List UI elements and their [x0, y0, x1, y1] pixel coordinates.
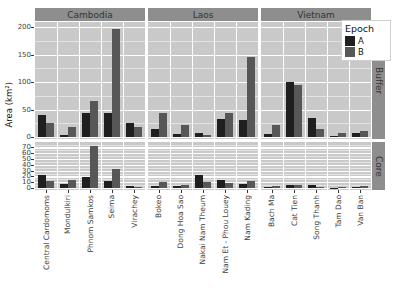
gridline-vertical	[214, 22, 215, 139]
bar-buffer-a	[286, 82, 294, 137]
y-tick	[31, 55, 34, 56]
gridline-major	[261, 137, 371, 138]
bar-buffer-a	[308, 118, 316, 137]
gridline-vertical	[170, 22, 171, 139]
gridline-vertical	[79, 22, 80, 139]
bar-buffer-b	[90, 101, 98, 137]
gridline-minor	[148, 150, 258, 151]
legend-label-b: B	[358, 47, 364, 57]
bar-core-a	[308, 185, 316, 188]
bar-buffer-b	[134, 127, 142, 137]
x-axis-label: Nam Kading	[243, 195, 252, 241]
gridline-vertical	[57, 142, 58, 190]
x-axis-label: Tam Dao	[334, 195, 343, 228]
bar-core-b	[203, 182, 211, 188]
legend-swatch-b	[345, 47, 355, 57]
gridline-major	[148, 147, 258, 148]
y-tick	[31, 27, 34, 28]
bar-buffer-b	[338, 133, 346, 137]
gridline-vertical	[192, 142, 193, 190]
gridline-minor	[261, 96, 371, 97]
bar-core-b	[112, 169, 120, 188]
bar-buffer-a	[217, 119, 225, 137]
gridline-vertical	[283, 22, 284, 139]
bar-core-a	[352, 187, 360, 188]
gridline-minor	[148, 174, 258, 175]
bar-core-b	[46, 181, 54, 188]
gridline-major	[35, 55, 145, 56]
facet-strip-label: Buffer	[374, 67, 384, 94]
gridline-minor	[35, 96, 145, 97]
x-tick	[134, 190, 135, 193]
bar-core-a	[60, 184, 68, 188]
x-tick	[338, 190, 339, 193]
gridline-minor	[148, 168, 258, 169]
y-axis-tick-label: 200	[2, 23, 31, 31]
faceted-bar-chart: Cambodia050100150200Central CardomomsMon…	[0, 0, 394, 289]
bar-core-b	[68, 180, 76, 188]
bar-buffer-b	[159, 113, 167, 137]
gridline-major	[148, 188, 258, 189]
gridline-vertical	[57, 22, 58, 139]
gridline-vertical	[327, 142, 328, 190]
bar-buffer-b	[112, 29, 120, 137]
bar-buffer-a	[126, 123, 134, 137]
gridline-minor	[261, 174, 371, 175]
bar-core-b	[272, 186, 280, 188]
x-axis-label: Bokeo	[155, 195, 164, 218]
legend-label-a: A	[358, 36, 364, 46]
bar-core-a	[126, 186, 134, 188]
bar-buffer-a	[173, 134, 181, 137]
x-axis-label: Mondulkiri	[64, 195, 73, 234]
bar-core-a	[330, 188, 338, 189]
bar-buffer-a	[104, 113, 112, 137]
y-tick	[31, 110, 34, 111]
bar-buffer-a	[352, 133, 360, 137]
bar-buffer-b	[68, 127, 76, 137]
y-axis-tick-label: 0	[2, 133, 31, 141]
x-axis-label: Nam Et - Phou Louey	[221, 195, 230, 274]
x-tick	[203, 190, 204, 193]
gridline-major	[261, 182, 371, 183]
gridline-vertical	[101, 22, 102, 139]
x-axis-label: Phnom Samkos	[86, 195, 95, 253]
bar-core-a	[239, 184, 247, 188]
bar-core-a	[151, 186, 159, 188]
gridline-minor	[148, 156, 258, 157]
x-axis-label: Nakai Nam Theum	[199, 195, 208, 264]
x-axis-label: Virachey	[130, 195, 139, 228]
gridline-vertical	[327, 22, 328, 139]
y-tick	[31, 171, 34, 172]
bar-core-a	[217, 180, 225, 188]
bar-core-a	[195, 175, 203, 188]
x-tick	[316, 190, 317, 193]
bar-core-a	[104, 181, 112, 188]
gridline-major	[148, 165, 258, 166]
y-tick	[31, 176, 34, 177]
gridline-minor	[261, 68, 371, 69]
bar-core-a	[286, 185, 294, 188]
facet-strip-laos: Laos	[148, 8, 258, 21]
x-axis-label: Bach Ma	[268, 195, 277, 227]
x-tick	[272, 190, 273, 193]
x-tick	[68, 190, 69, 193]
y-tick	[31, 159, 34, 160]
legend-swatch-a	[345, 36, 355, 46]
gridline-vertical	[305, 22, 306, 139]
gridline-minor	[148, 162, 258, 163]
gridline-minor	[261, 156, 371, 157]
x-tick	[90, 190, 91, 193]
bar-core-a	[38, 175, 46, 188]
gridline-major	[148, 27, 258, 28]
y-tick	[31, 165, 34, 166]
bar-buffer-a	[60, 135, 68, 137]
gridline-minor	[148, 179, 258, 180]
gridline-minor	[261, 162, 371, 163]
gridline-minor	[261, 150, 371, 151]
gridline-major	[148, 153, 258, 154]
bar-buffer-b	[294, 85, 302, 137]
facet-strip-core: Core	[372, 142, 385, 190]
y-axis-tick-label: 70	[2, 143, 31, 151]
gridline-major	[261, 171, 371, 172]
gridline-minor	[261, 145, 371, 146]
